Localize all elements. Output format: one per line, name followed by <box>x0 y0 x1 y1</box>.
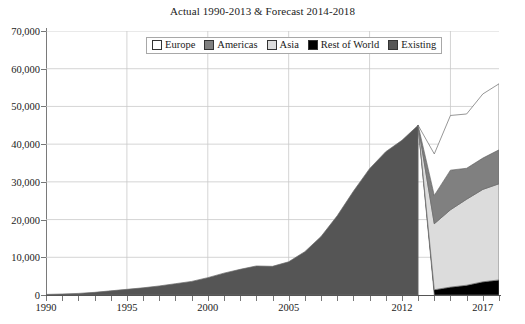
area-chart: Actual 1990-2013 & Forecast 2014-2018 Eu… <box>0 0 525 324</box>
chart-title: Actual 1990-2013 & Forecast 2014-2018 <box>0 5 525 17</box>
x-axis-tick <box>305 296 306 301</box>
x-axis-tick <box>224 296 225 301</box>
x-axis-tick-label: 2005 <box>278 302 299 313</box>
legend-label-asia: Asia <box>280 40 299 51</box>
x-axis-tick <box>46 296 47 301</box>
x-axis-tick <box>240 296 241 301</box>
x-axis-tick-label: 2017 <box>472 302 493 313</box>
legend-label-rest-of-world: Rest of World <box>321 40 379 51</box>
x-axis-tick-label: 2000 <box>197 302 218 313</box>
x-axis-tick <box>353 296 354 301</box>
legend-label-americas: Americas <box>217 40 257 51</box>
x-axis-tick <box>175 296 176 301</box>
legend-item-existing[interactable]: Existing <box>388 40 436 51</box>
legend-swatch-rest-of-world <box>308 40 318 50</box>
area-series-existing <box>46 125 418 295</box>
legend-item-europe[interactable]: Europe <box>152 40 195 51</box>
legend-swatch-asia <box>267 40 277 50</box>
x-axis-line <box>46 295 501 296</box>
x-axis-tick-label: 1995 <box>116 302 137 313</box>
x-axis-tick <box>402 296 403 301</box>
x-axis-tick <box>337 296 338 301</box>
x-axis-tick <box>95 296 96 301</box>
x-axis-tick <box>192 296 193 301</box>
x-axis-tick <box>78 296 79 301</box>
x-axis-tick <box>434 296 435 301</box>
x-axis-tick <box>159 296 160 301</box>
x-axis-tick <box>62 296 63 301</box>
x-axis-tick-label: 1990 <box>36 302 57 313</box>
x-axis-tick <box>321 296 322 301</box>
legend-item-americas[interactable]: Americas <box>204 40 257 51</box>
legend-swatch-europe <box>152 40 162 50</box>
x-axis-tick <box>467 296 468 301</box>
legend-label-europe: Europe <box>165 40 195 51</box>
chart-legend: Europe Americas Asia Rest of World Exist… <box>146 37 442 54</box>
x-axis-tick <box>418 296 419 301</box>
legend-swatch-americas <box>204 40 214 50</box>
x-axis-tick <box>450 296 451 301</box>
x-axis-tick <box>127 296 128 301</box>
y-axis-tick-label: 20,000 <box>0 214 40 225</box>
x-axis-tick <box>256 296 257 301</box>
x-axis-tick <box>483 296 484 301</box>
x-axis-tick <box>208 296 209 301</box>
y-axis-tick-label: 30,000 <box>0 176 40 187</box>
plot-svg <box>46 31 499 295</box>
y-axis-tick-label: 10,000 <box>0 252 40 263</box>
x-axis-tick <box>111 296 112 301</box>
y-axis-tick-label: 40,000 <box>0 139 40 150</box>
x-axis-tick <box>143 296 144 301</box>
y-axis-tick-label: 50,000 <box>0 101 40 112</box>
y-axis-tick-label: 60,000 <box>0 63 40 74</box>
legend-item-rest-of-world[interactable]: Rest of World <box>308 40 379 51</box>
y-axis-tick-label: 70,000 <box>0 26 40 37</box>
plot-area <box>46 31 499 295</box>
x-axis-tick <box>499 296 500 301</box>
legend-swatch-existing <box>388 40 398 50</box>
y-axis-tick-label: 0 <box>0 290 40 301</box>
x-axis-tick <box>386 296 387 301</box>
x-axis-tick <box>370 296 371 301</box>
x-axis-tick <box>289 296 290 301</box>
x-axis-tick-label: 2012 <box>391 302 412 313</box>
legend-label-existing: Existing <box>401 40 436 51</box>
x-axis-tick <box>273 296 274 301</box>
legend-item-asia[interactable]: Asia <box>267 40 299 51</box>
